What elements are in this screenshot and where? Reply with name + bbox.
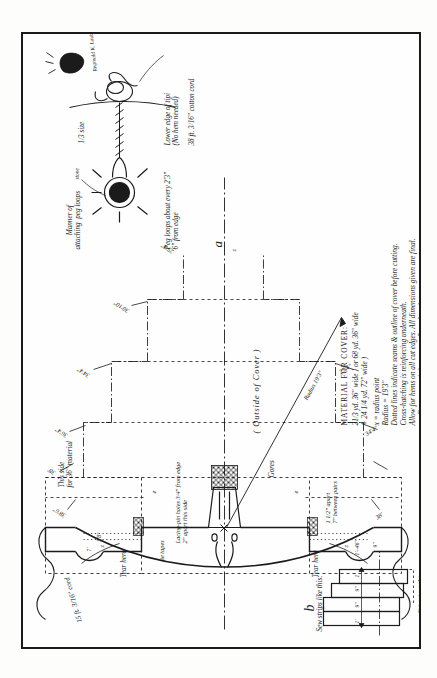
letter-z-3: z bbox=[229, 249, 236, 251]
callout-peg-loops: Peg loops about every 2'3" 6" from edge bbox=[163, 171, 180, 249]
letter-e-1: e bbox=[149, 490, 156, 493]
strip-w-0: 1' bbox=[353, 619, 359, 623]
callout-cotton-cord: 38 ft. 3/16" cotton cord bbox=[187, 78, 195, 145]
callout-lacing-pin-holes: Lacing-pin holes 3/4" from edge 2" apart… bbox=[173, 462, 188, 543]
dim-flap-sub: 9" bbox=[371, 542, 377, 547]
notes-block: MATERIAL FOR COVER: 21/3 yd. 36" wide } … bbox=[339, 95, 421, 425]
callout-manner-attaching: Manner of attaching peg loops bbox=[65, 191, 82, 250]
drawing-stage: 15 ft. 3/16" cord Tear here tie tapes La… bbox=[23, 34, 419, 647]
letter-z-2: z bbox=[341, 545, 348, 547]
notes-heading: MATERIAL FOR COVER: bbox=[339, 95, 348, 425]
dim-flap-height: 1'--46" bbox=[353, 540, 359, 555]
notes-line-2: x = radius point bbox=[371, 95, 380, 425]
peg-loop-detail bbox=[91, 157, 147, 222]
strip-w-2: 9" bbox=[353, 586, 359, 591]
signature-leader bbox=[139, 55, 163, 81]
strip-leader bbox=[339, 569, 413, 605]
dim-gap-58: 5'8" bbox=[95, 532, 101, 541]
callout-lower-edge: Lower edge of tipi (No hem needed) bbox=[163, 92, 180, 145]
callout-third-size: 1/3 size bbox=[77, 121, 85, 143]
apex-label-a: a bbox=[209, 241, 224, 248]
notes-line-5: Cross-hatching is reinforcing underneath… bbox=[398, 95, 407, 425]
dimension-verticals-upper bbox=[83, 299, 224, 422]
reinforcement-hatch-center bbox=[211, 465, 237, 489]
callout-tie-tapes: tie tapes bbox=[157, 540, 164, 561]
strip-w-3: 1' bbox=[353, 573, 359, 577]
callout-apart-between-pairs: 1 1/2" apart 7" between pairs bbox=[323, 480, 338, 523]
lacing-pin-holes bbox=[83, 533, 367, 539]
callout-gores: Gores bbox=[267, 460, 275, 477]
callout-this-side-36: This side for 36" material bbox=[57, 440, 74, 487]
notes-line-6: Allow for hems on all cut edges. All dim… bbox=[407, 95, 416, 425]
notes-line-4: Dotted lines indicate seams & outline of… bbox=[389, 95, 398, 425]
dimension-ladder-upper bbox=[83, 255, 183, 477]
notes-line-0: 21/3 yd. 36" wide } or 68 yd. 36" wide bbox=[350, 95, 359, 425]
center-label: ( Outside of Cover ) bbox=[251, 348, 261, 433]
notes-line-7: Cut gores, reinforcements & pockets from… bbox=[416, 95, 421, 415]
letter-e-2: e bbox=[291, 490, 298, 493]
callout-sew-strips: Sew strips like this: bbox=[315, 575, 323, 631]
laubin-figure bbox=[45, 52, 83, 73]
callout-tear-here-top: Tear here bbox=[119, 550, 127, 577]
strip-w-1: 9" bbox=[353, 602, 359, 607]
strip-diagram bbox=[323, 569, 407, 625]
letter-z-1: z bbox=[97, 545, 104, 547]
tipi-edge-line bbox=[69, 101, 175, 107]
notes-line-3: Radius = 19'3" bbox=[380, 95, 389, 425]
notes-line-1: + 24 1/4 yd. 72" wide ) bbox=[359, 95, 368, 425]
center-tongue bbox=[208, 487, 240, 567]
reinforcement-hatch-lower bbox=[307, 517, 317, 535]
drawing-frame: 15 ft. 3/16" cord Tear here tie tapes La… bbox=[21, 32, 421, 649]
callout-tear-here-bottom: Tear here bbox=[311, 550, 319, 577]
callout-cut-out-z: Cut out z and z; add to bottom bbox=[415, 573, 421, 613]
dim-gap-7: 7' bbox=[85, 547, 91, 551]
callout-stone: stone bbox=[73, 168, 79, 179]
peg-loop-knot bbox=[95, 72, 137, 101]
peg-loop-rope bbox=[115, 102, 123, 157]
